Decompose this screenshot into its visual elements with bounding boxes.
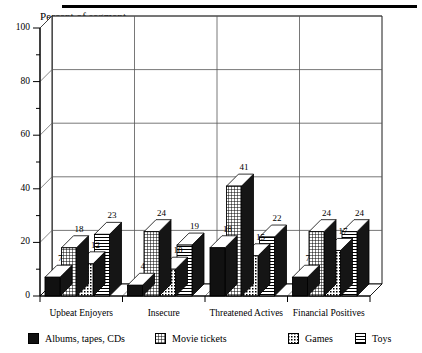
x-axis-tick-label: Upbeat Enjoyers bbox=[40, 308, 123, 318]
chart-canvas bbox=[0, 0, 422, 353]
legend-label: Albums, tapes, CDs bbox=[45, 333, 125, 344]
legend-swatch-grid bbox=[155, 333, 166, 344]
y-axis-tick-label: 20 bbox=[8, 236, 30, 246]
y-axis-tick-label: 40 bbox=[8, 183, 30, 193]
bar-value-label: 24 bbox=[322, 208, 331, 218]
bar-value-label: 15 bbox=[256, 232, 265, 242]
bar-value-label: 17 bbox=[339, 226, 348, 236]
bar-value-label: 18 bbox=[75, 224, 84, 234]
y-axis-tick-label: 60 bbox=[8, 129, 30, 139]
y-axis-tick-label: 80 bbox=[8, 76, 30, 86]
x-axis-tick-label: Insecure bbox=[123, 308, 206, 318]
bar-value-label: 24 bbox=[157, 208, 166, 218]
legend-swatch-solid-black bbox=[28, 333, 39, 344]
legend-label: Toys bbox=[372, 333, 391, 344]
legend-swatch-dotted bbox=[288, 333, 299, 344]
y-axis-tick-label: 100 bbox=[8, 22, 30, 32]
x-axis-tick-label: Threatened Actives bbox=[205, 308, 288, 318]
legend-item: Toys bbox=[355, 330, 391, 346]
bar-value-label: 24 bbox=[355, 208, 364, 218]
legend-swatch-horizontal-lines bbox=[355, 333, 366, 344]
legend-item: Movie tickets bbox=[155, 330, 227, 346]
bar-value-label: 7 bbox=[58, 253, 63, 263]
bar-value-label: 22 bbox=[273, 213, 282, 223]
bar-value-label: 4 bbox=[141, 261, 146, 271]
legend-label: Movie tickets bbox=[172, 333, 227, 344]
legend: Albums, tapes, CDs Movie tickets bbox=[0, 330, 422, 350]
chart-root: Percent of segment bbox=[0, 0, 422, 353]
bar-value-label: 12 bbox=[91, 240, 100, 250]
legend-item: Albums, tapes, CDs bbox=[28, 330, 125, 346]
x-axis-tick-label: Financial Positives bbox=[288, 308, 371, 318]
plot-area bbox=[0, 0, 422, 353]
bar-value-label: 10 bbox=[174, 245, 183, 255]
bar-value-label: 7 bbox=[306, 253, 311, 263]
bar-value-label: 41 bbox=[240, 162, 249, 172]
legend-item: Games bbox=[288, 330, 333, 346]
bar-value-label: 23 bbox=[108, 210, 117, 220]
bar-value-label: 18 bbox=[223, 224, 232, 234]
bar-value-label: 19 bbox=[190, 221, 199, 231]
y-axis-tick-label: 0 bbox=[8, 290, 30, 300]
legend-label: Games bbox=[305, 333, 333, 344]
